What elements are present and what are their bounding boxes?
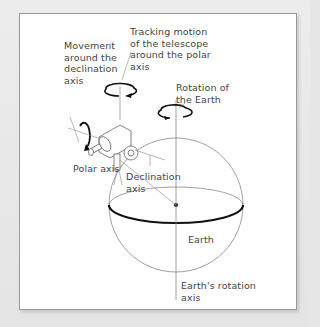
label-declination-movement: Movement around the declination axis (64, 40, 118, 86)
label-earth-rotation-axis: Earth's rotation axis (181, 280, 256, 303)
label-polar-axis: Polar axis (73, 163, 120, 175)
label-earth-rotation: Rotation of the Earth (176, 82, 229, 105)
label-earth: Earth (188, 234, 214, 246)
declination-rotation-arrow (80, 123, 90, 148)
earth-rotation-arrow (158, 105, 192, 118)
label-tracking-motion: Tracking motion of the telescope around … (130, 26, 211, 72)
label-declination-axis: Declination axis (126, 171, 181, 194)
